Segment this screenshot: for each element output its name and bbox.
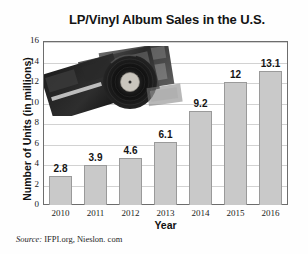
x-axis-tick-label: 2015 (218, 208, 253, 218)
bar-slot: 9.2 (183, 41, 218, 205)
bar (224, 82, 247, 205)
x-axis-tick-label: 2012 (113, 208, 148, 218)
source-note: Source: IFPI.org, Nieslon. com (16, 234, 122, 244)
source-text: IFPI.org, Nieslon. com (44, 234, 122, 244)
y-axis-tick-label: 12 (13, 76, 39, 86)
bar-slot: 13.1 (253, 41, 288, 205)
bar-value-label: 6.1 (148, 129, 183, 140)
y-axis-tick-label: 2 (13, 179, 39, 189)
bar (49, 176, 72, 205)
bar-value-label: 12 (218, 69, 253, 80)
bar-value-label: 3.9 (78, 152, 113, 163)
bar-slot: 12 (218, 41, 253, 205)
bar (154, 142, 177, 205)
y-axis-tick-label: 10 (13, 97, 39, 107)
bar-slot: 2.8 (43, 41, 78, 205)
chart-title: LP/Vinyl Album Sales in the U.S. (0, 12, 308, 27)
chart-figure: LP/Vinyl Album Sales in the U.S. Number … (0, 0, 308, 254)
y-axis-tick-label: 8 (13, 117, 39, 127)
bar (189, 111, 212, 205)
bar-series: 2.83.94.66.19.21213.1 (43, 41, 288, 205)
y-axis-tick-label: 6 (13, 138, 39, 148)
bar (119, 158, 142, 205)
bar-slot: 3.9 (78, 41, 113, 205)
bar-value-label: 2.8 (43, 163, 78, 174)
bar-value-label: 9.2 (183, 98, 218, 109)
bar (84, 165, 107, 205)
bar (259, 71, 282, 205)
bar-value-label: 13.1 (253, 58, 288, 69)
y-axis-tick-label: 16 (13, 35, 39, 45)
x-axis-tick-label: 2010 (43, 208, 78, 218)
x-axis-tick-label: 2016 (253, 208, 288, 218)
y-axis-tick-label: 4 (13, 158, 39, 168)
x-axis-tick-label: 2013 (148, 208, 183, 218)
x-axis-tick-label: 2011 (78, 208, 113, 218)
y-axis-tick-label: 14 (13, 56, 39, 66)
source-label: Source: (16, 234, 42, 244)
bar-value-label: 4.6 (113, 145, 148, 156)
x-axis-tick-label: 2014 (183, 208, 218, 218)
bar-slot: 6.1 (148, 41, 183, 205)
x-axis-title: Year (43, 219, 288, 231)
bar-slot: 4.6 (113, 41, 148, 205)
y-axis-tick-label: 0 (13, 199, 39, 209)
